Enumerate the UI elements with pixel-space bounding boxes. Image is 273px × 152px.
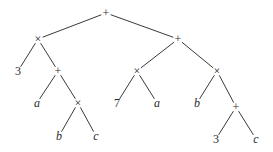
number-node-3: 3 bbox=[15, 64, 21, 78]
plus-operator-node: + bbox=[103, 6, 110, 20]
tree-edge bbox=[62, 107, 76, 131]
number-node-3: 3 bbox=[213, 132, 219, 146]
tree-edge bbox=[40, 75, 56, 99]
variable-node-c: c bbox=[253, 132, 259, 146]
expression-tree-diagram: +×3+a×bc+×7a×b+3c bbox=[0, 0, 273, 152]
variable-node-b: b bbox=[194, 96, 200, 110]
tree-edge bbox=[80, 107, 93, 131]
tree-edge bbox=[219, 111, 234, 135]
tree-edge bbox=[43, 15, 102, 37]
tree-edge bbox=[111, 15, 174, 38]
tree-edge bbox=[219, 75, 233, 102]
plus-operator-node: + bbox=[233, 100, 240, 114]
times-operator-node: × bbox=[134, 64, 141, 78]
variable-node-b: b bbox=[56, 129, 62, 143]
variable-node-a: a bbox=[34, 96, 40, 110]
tree-edge bbox=[182, 42, 213, 68]
number-node-7: 7 bbox=[114, 96, 120, 110]
tree-edge bbox=[61, 75, 76, 99]
tree-edge bbox=[200, 75, 215, 99]
plus-operator-node: + bbox=[175, 32, 182, 46]
times-operator-node: × bbox=[214, 64, 221, 78]
tree-edge bbox=[140, 75, 155, 99]
times-operator-node: × bbox=[75, 96, 82, 110]
times-operator-node: × bbox=[35, 32, 42, 46]
tree-edge bbox=[21, 43, 36, 67]
tree-edge bbox=[141, 42, 174, 68]
tree-edge bbox=[120, 75, 135, 99]
tree-edge bbox=[41, 43, 56, 67]
tree-nodes: +×3+a×bc+×7a×b+3c bbox=[15, 6, 259, 146]
plus-operator-node: + bbox=[55, 64, 62, 78]
tree-edge bbox=[239, 111, 254, 135]
variable-node-a: a bbox=[154, 96, 160, 110]
variable-node-c: c bbox=[93, 129, 99, 143]
